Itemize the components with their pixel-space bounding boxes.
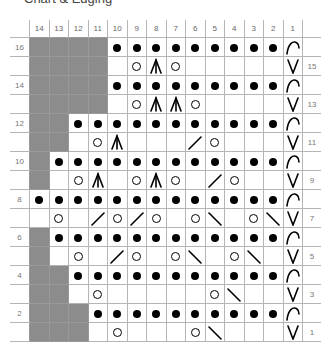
purl-dot-icon xyxy=(94,196,102,204)
stitch-cell xyxy=(205,114,225,133)
yarn-over-icon xyxy=(191,214,200,223)
stitch-cell xyxy=(49,209,69,228)
purl-dot-icon xyxy=(250,272,258,280)
row-number-left xyxy=(10,95,30,114)
stitch-cell xyxy=(69,209,89,228)
stitch-cell xyxy=(205,95,225,114)
stitch-cell xyxy=(244,304,264,323)
no-stitch-cell xyxy=(49,285,69,304)
stitch-cell xyxy=(69,266,89,285)
purl-dot-icon xyxy=(113,82,121,90)
stitch-cell xyxy=(186,38,206,57)
row-number-left xyxy=(10,285,30,304)
row-number-left: 12 xyxy=(10,114,30,133)
stitch-cell xyxy=(127,76,147,95)
stitch-cell xyxy=(186,95,206,114)
purl-dot-icon xyxy=(250,158,258,166)
no-stitch-cell xyxy=(30,266,50,285)
slip-stitch-icon xyxy=(285,286,301,302)
stitch-cell xyxy=(147,247,167,266)
left-slant-decrease-icon xyxy=(246,248,262,264)
stitch-cell xyxy=(264,38,284,57)
stitch-cell xyxy=(264,114,284,133)
edge-arc-icon xyxy=(285,77,301,93)
stitch-cell xyxy=(147,190,167,209)
stitch-cell xyxy=(88,266,108,285)
purl-dot-icon xyxy=(74,272,82,280)
right-slant-decrease-icon xyxy=(187,134,203,150)
purl-dot-icon xyxy=(113,272,121,280)
purl-dot-icon xyxy=(172,82,180,90)
purl-dot-icon xyxy=(269,310,277,318)
stitch-cell xyxy=(69,171,89,190)
right-slant-decrease-icon xyxy=(129,210,145,226)
chart-title: Chart & Edging xyxy=(24,0,112,6)
stitch-cell xyxy=(49,171,69,190)
stitch-cell xyxy=(264,190,284,209)
stitch-cell xyxy=(186,266,206,285)
right-slant-decrease-icon xyxy=(109,248,125,264)
yarn-over-icon xyxy=(93,290,102,299)
stitch-cell xyxy=(69,133,89,152)
purl-dot-icon xyxy=(113,158,121,166)
central-double-decrease-icon xyxy=(109,134,125,150)
purl-dot-icon xyxy=(250,196,258,204)
purl-dot-icon xyxy=(211,44,219,52)
row-number-right: 13 xyxy=(303,95,322,114)
no-stitch-cell xyxy=(30,57,50,76)
stitch-cell xyxy=(205,304,225,323)
stitch-cell xyxy=(244,95,264,114)
row-number-right xyxy=(303,228,322,247)
stitch-cell xyxy=(205,133,225,152)
yarn-over-icon xyxy=(210,138,219,147)
stitch-cell xyxy=(186,304,206,323)
stitch-cell xyxy=(244,285,264,304)
row-number-right: 7 xyxy=(303,209,322,228)
stitch-cell xyxy=(186,285,206,304)
purl-dot-icon xyxy=(211,82,219,90)
stitch-cell xyxy=(108,152,128,171)
column-number: 14 xyxy=(30,20,50,38)
central-double-decrease-icon xyxy=(148,172,164,188)
column-number: 6 xyxy=(186,20,206,38)
yarn-over-icon xyxy=(93,138,102,147)
stitch-cell xyxy=(166,285,186,304)
edge-arc-icon xyxy=(285,153,301,169)
column-number: 5 xyxy=(205,20,225,38)
stitch-cell xyxy=(127,57,147,76)
stitch-cell xyxy=(244,57,264,76)
stitch-cell xyxy=(264,152,284,171)
stitch-cell xyxy=(108,95,128,114)
stitch-cell xyxy=(205,190,225,209)
stitch-cell xyxy=(283,95,303,114)
stitch-cell xyxy=(108,171,128,190)
stitch-cell xyxy=(30,209,50,228)
purl-dot-icon xyxy=(94,310,102,318)
stitch-cell xyxy=(127,171,147,190)
purl-dot-icon xyxy=(133,196,141,204)
edge-arc-icon xyxy=(285,229,301,245)
slip-stitch-icon xyxy=(285,172,301,188)
stitch-cell xyxy=(147,76,167,95)
column-number: 11 xyxy=(88,20,108,38)
purl-dot-icon xyxy=(269,234,277,242)
row-number-right: 15 xyxy=(303,57,322,76)
column-number: 10 xyxy=(108,20,128,38)
stitch-cell xyxy=(225,247,245,266)
stitch-cell xyxy=(69,285,89,304)
slip-stitch-icon xyxy=(285,248,301,264)
stitch-cell xyxy=(244,266,264,285)
stitch-cell xyxy=(127,152,147,171)
stitch-cell xyxy=(108,190,128,209)
no-stitch-cell xyxy=(30,323,50,342)
yarn-over-icon xyxy=(249,214,258,223)
column-number: 12 xyxy=(69,20,89,38)
purl-dot-icon xyxy=(172,234,180,242)
purl-dot-icon xyxy=(74,196,82,204)
stitch-cell xyxy=(49,228,69,247)
stitch-cell xyxy=(244,76,264,95)
purl-dot-icon xyxy=(55,158,63,166)
no-stitch-cell xyxy=(30,304,50,323)
stitch-cell xyxy=(186,114,206,133)
slip-stitch-icon xyxy=(285,210,301,226)
